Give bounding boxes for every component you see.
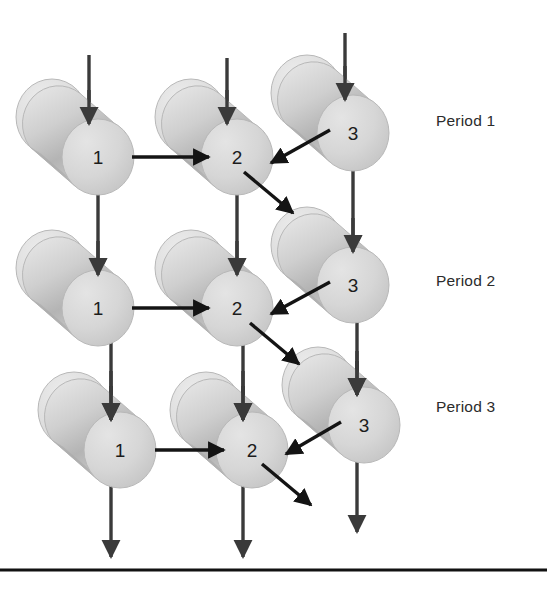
period-label-period-1: Period 1 [436, 112, 495, 130]
branch-outflow-arrow [262, 464, 311, 505]
cylinder-node [38, 372, 156, 488]
node-number-label: 2 [247, 440, 258, 461]
period-label-period-2: Period 2 [436, 272, 495, 290]
cylinder-nodes [16, 55, 400, 488]
node-number-label: 2 [232, 298, 243, 319]
node-number-label: 3 [348, 275, 359, 296]
node-number-label: 3 [359, 415, 370, 436]
figure-canvas: 123123123 Period 1Period 2Period 3 [0, 0, 547, 591]
node-number-label: 2 [232, 147, 243, 168]
node-number-label: 3 [348, 123, 359, 144]
diagram-svg: 123123123 [0, 0, 547, 591]
cylinder-node [155, 79, 273, 195]
node-number-label: 1 [115, 440, 126, 461]
period-label-period-3: Period 3 [436, 398, 495, 416]
node-number-label: 1 [93, 147, 104, 168]
cylinder-node [16, 230, 134, 346]
cylinder-node [16, 79, 134, 195]
branch-outflow-arrow [250, 323, 299, 364]
node-number-label: 1 [93, 298, 104, 319]
